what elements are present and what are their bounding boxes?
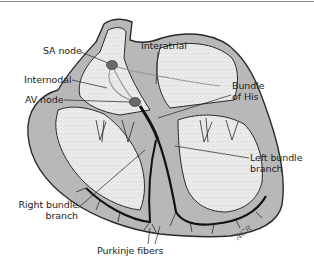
label-interatrial: Interatrial — [141, 40, 187, 51]
label-sa-node: SA node — [43, 45, 82, 56]
label-internodal: Internodal — [24, 74, 71, 85]
label-left-bundle-1: Left bundle — [250, 152, 302, 163]
label-av-node: AV node — [25, 94, 63, 105]
label-bundle-of-his-2: of His — [232, 91, 258, 102]
label-right-bundle-2: branch — [18, 210, 78, 221]
label-right-bundle-1: Right bundle — [18, 199, 78, 210]
label-purkinje-fibers: Purkinje fibers — [97, 245, 163, 256]
left-atrium — [157, 43, 238, 108]
label-left-bundle-2: branch — [250, 163, 282, 174]
sa-node — [107, 61, 118, 70]
av-node — [130, 98, 141, 107]
label-bundle-of-his-1: Bundle — [232, 80, 264, 91]
